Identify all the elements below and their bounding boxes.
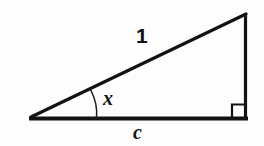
right-angle-marker-icon <box>232 105 245 119</box>
angle-label: x <box>103 88 113 108</box>
hypotenuse-label: 1 <box>136 25 148 46</box>
angle-arc-icon <box>91 90 97 119</box>
figure-canvas: 1 x c <box>0 0 264 146</box>
base-label: c <box>133 122 142 142</box>
triangle-drawing <box>0 0 264 146</box>
